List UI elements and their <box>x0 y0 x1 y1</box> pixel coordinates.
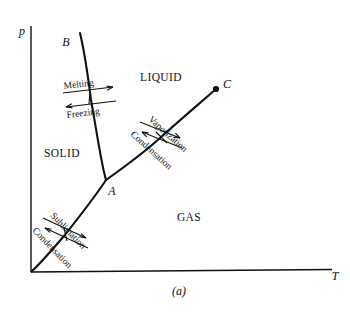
vaporization-condensation-annotation: Vaporization Condensation <box>129 114 190 172</box>
phase-diagram-svg: p T B A C SOLID LIQUID GAS <box>0 0 350 316</box>
vaporization-curve <box>106 89 216 180</box>
critical-point-marker <box>213 86 219 92</box>
point-label-c: C <box>223 77 232 91</box>
temperature-axis-label: T <box>332 269 340 283</box>
region-label-gas: GAS <box>177 211 201 223</box>
melting-freezing-annotation: Melting Freezing <box>63 77 116 120</box>
point-label-b: B <box>62 35 70 49</box>
figure-caption: (a) <box>172 284 186 298</box>
region-label-solid: SOLID <box>44 147 80 159</box>
region-label-liquid: LIQUID <box>140 71 182 83</box>
phase-diagram-figure: p T B A C SOLID LIQUID GAS <box>0 0 350 316</box>
pressure-axis-label: p <box>18 24 25 38</box>
temperature-axis-line <box>31 270 332 273</box>
point-label-a: A <box>107 184 116 198</box>
